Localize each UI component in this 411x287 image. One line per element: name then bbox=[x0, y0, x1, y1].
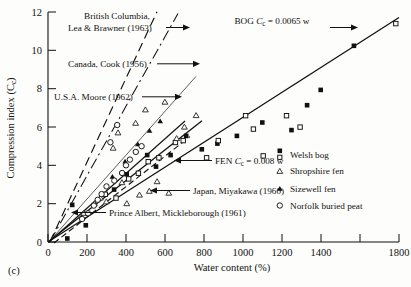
chart-canvas: 0 2 4 6 8 10 12 0 bbox=[0, 0, 411, 287]
compression-index-scatter-chart: 0 2 4 6 8 10 12 0 bbox=[0, 0, 411, 287]
data-point bbox=[181, 138, 185, 142]
data-point bbox=[394, 21, 398, 25]
data-point bbox=[168, 153, 173, 158]
annotation-prince-albert: Prince Albert, Mickleborough (1961) bbox=[71, 208, 246, 218]
filled-square-icon bbox=[278, 149, 283, 154]
data-point bbox=[318, 88, 323, 93]
data-point bbox=[193, 113, 199, 118]
open-circle-icon bbox=[277, 203, 282, 208]
data-point bbox=[65, 236, 70, 241]
annotation-bog: BOG Cc = 0.0065 w bbox=[234, 16, 358, 31]
annotation-prefix: FEN bbox=[215, 156, 235, 166]
legend-item-norfolk-buried-peat: Norfolk buried peat bbox=[277, 201, 363, 211]
legend-item-shropshire-fen: Shropshire fen bbox=[277, 166, 344, 176]
data-point bbox=[260, 120, 265, 125]
data-point bbox=[112, 178, 117, 183]
data-point bbox=[157, 156, 161, 160]
y-axis-ticks bbox=[48, 12, 56, 242]
annotation-prefix: BOG bbox=[234, 16, 256, 26]
data-point bbox=[108, 140, 113, 145]
y-tick-label: 8 bbox=[37, 83, 42, 94]
data-point bbox=[162, 99, 168, 104]
legend-label: Welsh bog bbox=[290, 150, 329, 160]
y-axis-title-tail: ) bbox=[5, 77, 17, 81]
data-point bbox=[136, 171, 140, 175]
data-point bbox=[104, 184, 109, 189]
annotation-text: Prince Albert, Mickleborough (1961) bbox=[109, 208, 246, 218]
data-point bbox=[85, 211, 90, 216]
data-point bbox=[115, 122, 120, 127]
x-tick-label: 800 bbox=[196, 247, 212, 258]
annotation-text: Japan, Miyakawa (1960) bbox=[193, 186, 284, 196]
panel-caption: (c) bbox=[8, 265, 20, 277]
y-axis-title-main: Compression index (C bbox=[5, 84, 17, 179]
data-point bbox=[127, 157, 132, 162]
data-point bbox=[200, 147, 205, 152]
data-point bbox=[127, 177, 131, 181]
y-axis-tick-labels: 0 2 4 6 8 10 12 bbox=[32, 7, 43, 248]
data-point bbox=[114, 196, 118, 200]
annotation-line-1: British Columbia, bbox=[84, 11, 150, 21]
data-point bbox=[174, 136, 180, 141]
x-axis-tick-labels: 0 200 400 600 800 1000 1200 1400 1800 bbox=[45, 247, 409, 258]
data-point bbox=[133, 120, 139, 125]
data-point bbox=[99, 191, 104, 196]
data-point bbox=[289, 128, 294, 133]
data-point bbox=[133, 149, 138, 154]
annotation-usa-moore: U.S.A. Moore (1962) bbox=[54, 92, 182, 102]
arrow-head-icon bbox=[193, 61, 200, 67]
data-point bbox=[352, 44, 357, 49]
arrow-head-icon bbox=[183, 24, 190, 30]
x-tick-label: 200 bbox=[79, 247, 95, 258]
x-tick-label: 600 bbox=[157, 247, 173, 258]
data-point bbox=[84, 223, 89, 228]
annotation-canada-cook: Canada, Cook (1956) bbox=[68, 59, 200, 69]
annotation-text: BOG Cc = 0.0065 w bbox=[234, 16, 309, 28]
data-point bbox=[95, 197, 100, 202]
x-tick-label: 1000 bbox=[233, 247, 254, 258]
x-tick-label: 0 bbox=[45, 247, 50, 258]
open-square-icon bbox=[278, 155, 282, 159]
legend-label: Shropshire fen bbox=[290, 166, 344, 176]
data-point bbox=[115, 130, 121, 135]
x-tick-label: 400 bbox=[118, 247, 134, 258]
legend-label: Sizewell fen bbox=[290, 184, 336, 194]
arrow-head-icon bbox=[351, 24, 358, 30]
y-tick-label: 4 bbox=[37, 160, 43, 171]
data-point bbox=[145, 153, 150, 158]
arrow-head-icon bbox=[174, 157, 181, 163]
y-tick-label: 2 bbox=[37, 198, 42, 209]
y-tick-label: 6 bbox=[37, 122, 42, 133]
data-point bbox=[182, 124, 188, 129]
legend-item-welsh-bog: Welsh bog bbox=[278, 149, 330, 160]
annotation-suffix: = 0.0065 w bbox=[266, 16, 310, 26]
annotation-fen: FEN Cc = 0.008 w bbox=[174, 156, 284, 168]
data-point bbox=[154, 164, 159, 169]
data-point bbox=[184, 134, 189, 139]
annotation-text: Canada, Cook (1956) bbox=[68, 59, 147, 69]
legend: Welsh bog Shropshire fen Sizewell fen No… bbox=[277, 149, 363, 212]
data-point bbox=[110, 145, 116, 150]
x-tick-label: 1800 bbox=[389, 247, 410, 258]
data-point bbox=[112, 187, 117, 192]
svg-text:Water content (%): Water content (%) bbox=[194, 262, 271, 274]
data-point bbox=[298, 125, 302, 129]
y-tick-label: 12 bbox=[32, 7, 43, 18]
x-axis-title: Water content (%) bbox=[194, 262, 271, 274]
arrow-head-icon bbox=[71, 209, 78, 215]
data-point bbox=[251, 127, 255, 131]
data-point bbox=[305, 103, 310, 108]
open-triangle-icon bbox=[277, 168, 283, 173]
data-point bbox=[139, 144, 144, 149]
data-point bbox=[79, 216, 84, 221]
arrow-head-icon bbox=[175, 94, 182, 100]
annotation-text: FEN Cc = 0.008 w bbox=[215, 156, 284, 168]
data-point bbox=[154, 179, 160, 184]
data-point bbox=[284, 114, 288, 118]
data-point bbox=[146, 160, 150, 164]
figure-panel: 0 2 4 6 8 10 12 0 bbox=[0, 0, 411, 287]
legend-item-sizewell-fen: Sizewell fen bbox=[277, 184, 336, 194]
data-point bbox=[91, 203, 96, 208]
data-point bbox=[70, 203, 75, 208]
data-point bbox=[243, 114, 247, 118]
